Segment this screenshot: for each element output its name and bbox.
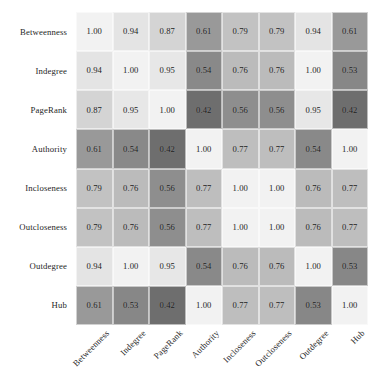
heatmap-cell: 0.53: [295, 286, 332, 325]
heatmap-cell: 1.00: [222, 169, 259, 208]
heatmap-cell-value: 0.56: [269, 106, 284, 115]
heatmap-cell-value: 1.00: [269, 184, 284, 193]
heatmap-cell: 0.61: [186, 12, 223, 51]
heatmap-cell-value: 0.77: [269, 145, 284, 154]
y-axis-label: Incloseness: [0, 169, 72, 208]
heatmap-cell: 0.77: [332, 208, 369, 247]
heatmap-cell: 1.00: [222, 208, 259, 247]
heatmap-cell-value: 1.00: [342, 145, 357, 154]
y-axis-label: PageRank: [0, 90, 72, 129]
heatmap-cell-value: 0.79: [87, 223, 102, 232]
heatmap-cell: 0.53: [113, 286, 150, 325]
heatmap-cell: 1.00: [76, 12, 113, 51]
heatmap-cell: 0.54: [295, 129, 332, 168]
heatmap-cell-value: 0.61: [87, 145, 102, 154]
heatmap-cell: 0.79: [222, 12, 259, 51]
heatmap-cell-value: 0.87: [160, 27, 175, 36]
heatmap-cell: 0.56: [149, 169, 186, 208]
x-axis-label-slot: Incloseness: [222, 325, 259, 383]
heatmap-cell: 1.00: [332, 286, 369, 325]
x-axis-label-slot: PageRank: [149, 325, 186, 383]
y-axis-label: Hub: [0, 286, 72, 325]
heatmap-cell: 0.42: [186, 90, 223, 129]
heatmap-cell-value: 0.76: [306, 223, 321, 232]
heatmap-cell: 0.79: [76, 169, 113, 208]
heatmap-grid: 1.000.940.870.610.790.790.940.610.941.00…: [76, 12, 368, 325]
heatmap-cell: 0.95: [149, 247, 186, 286]
heatmap-cell-value: 1.00: [87, 27, 102, 36]
heatmap-cell-value: 0.56: [160, 184, 175, 193]
heatmap-cell: 0.61: [76, 286, 113, 325]
y-axis-labels: BetweennessIndegreePageRankAuthorityIncl…: [0, 12, 72, 325]
heatmap-cell: 0.61: [76, 129, 113, 168]
heatmap-cell-value: 1.00: [160, 106, 175, 115]
heatmap-cell: 1.00: [295, 247, 332, 286]
heatmap-cell: 0.77: [186, 169, 223, 208]
y-axis-label: Indegree: [0, 51, 72, 90]
heatmap-cell: 1.00: [149, 90, 186, 129]
x-axis-label-slot: Indegree: [113, 325, 150, 383]
heatmap-cell-value: 0.77: [196, 184, 211, 193]
heatmap-cell-value: 0.54: [123, 145, 138, 154]
heatmap-cell: 0.54: [186, 51, 223, 90]
heatmap-cell: 0.42: [149, 286, 186, 325]
heatmap-cell: 1.00: [113, 247, 150, 286]
heatmap-cell-value: 1.00: [123, 66, 138, 75]
heatmap-cell: 0.76: [113, 169, 150, 208]
heatmap-cell-value: 1.00: [233, 223, 248, 232]
heatmap-cell-value: 0.79: [87, 184, 102, 193]
heatmap-cell: 0.94: [76, 247, 113, 286]
heatmap-cell-value: 1.00: [342, 301, 357, 310]
heatmap-cell: 0.79: [259, 12, 296, 51]
heatmap-cell-value: 0.54: [306, 145, 321, 154]
heatmap-cell: 0.54: [186, 247, 223, 286]
heatmap-cell: 1.00: [186, 129, 223, 168]
heatmap-cell-value: 0.61: [87, 301, 102, 310]
x-axis-label-slot: Authority: [186, 325, 223, 383]
heatmap-cell-value: 0.53: [306, 301, 321, 310]
heatmap-cell-value: 0.76: [269, 66, 284, 75]
x-axis-label-slot: Outcloseness: [259, 325, 296, 383]
heatmap-cell-value: 0.94: [306, 27, 321, 36]
heatmap-cell: 0.87: [76, 90, 113, 129]
heatmap-cell: 0.56: [149, 208, 186, 247]
heatmap-cell-value: 1.00: [306, 262, 321, 271]
heatmap-cell: 0.77: [222, 129, 259, 168]
y-axis-label: Betweenness: [0, 12, 72, 51]
heatmap-cell-value: 0.94: [123, 27, 138, 36]
heatmap-cell: 0.76: [295, 169, 332, 208]
heatmap-cell-value: 0.95: [123, 106, 138, 115]
heatmap-cell-value: 0.79: [233, 27, 248, 36]
heatmap-cell-value: 0.79: [269, 27, 284, 36]
heatmap-cell: 0.76: [113, 208, 150, 247]
heatmap-cell-value: 0.94: [87, 262, 102, 271]
x-axis-label-slot: Outdegree: [295, 325, 332, 383]
heatmap-cell-value: 1.00: [233, 184, 248, 193]
heatmap-cell-value: 0.42: [160, 301, 175, 310]
heatmap-cell-value: 0.76: [233, 262, 248, 271]
heatmap-cell-value: 0.77: [233, 145, 248, 154]
heatmap-cell-value: 0.77: [196, 223, 211, 232]
heatmap-cell-value: 0.76: [123, 184, 138, 193]
heatmap-cell: 0.77: [222, 286, 259, 325]
y-axis-label: Outdegree: [0, 247, 72, 286]
heatmap-cell-value: 0.42: [342, 106, 357, 115]
heatmap-cell-value: 1.00: [123, 262, 138, 271]
heatmap-cell-value: 0.53: [123, 301, 138, 310]
heatmap-cell-value: 1.00: [196, 301, 211, 310]
heatmap-cell: 1.00: [332, 129, 369, 168]
heatmap-cell-value: 0.56: [160, 223, 175, 232]
x-axis-label: Hub: [349, 328, 367, 346]
heatmap-cell: 0.94: [113, 12, 150, 51]
heatmap-cell: 0.95: [113, 90, 150, 129]
heatmap-cell: 0.95: [149, 51, 186, 90]
x-axis-label: Authority: [189, 328, 221, 360]
y-axis-label: Outcloseness: [0, 208, 72, 247]
heatmap-cell-value: 0.94: [87, 66, 102, 75]
heatmap-cell-value: 1.00: [269, 223, 284, 232]
heatmap-cell-value: 0.61: [196, 27, 211, 36]
heatmap-cell-value: 0.77: [342, 184, 357, 193]
heatmap-cell-value: 0.95: [306, 106, 321, 115]
heatmap-cell-value: 0.77: [342, 223, 357, 232]
heatmap-cell: 0.53: [332, 247, 369, 286]
